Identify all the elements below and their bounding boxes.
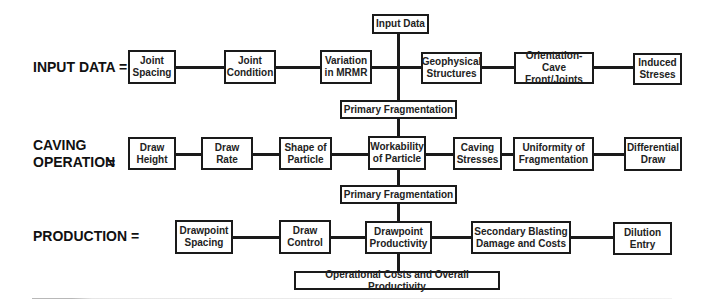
node-induced-stresses: Induced Streses xyxy=(633,53,682,85)
node-draw-rate: Draw Rate xyxy=(201,137,253,170)
node-shape-of-particle: Shape of Particle xyxy=(279,137,332,170)
row-label-input-data: INPUT DATA = xyxy=(33,59,127,76)
node-geophysical-structures: Geophysical Structures xyxy=(421,52,482,84)
node-dilution-entry: Dilution Entry xyxy=(613,222,672,255)
primary-fragmentation-node-1: Primary Fragmentation xyxy=(340,100,457,119)
node-uniformity-of-fragmentation: Uniformity of Fragmentation xyxy=(513,137,594,171)
trunk-line-mid2 xyxy=(397,169,400,186)
node-drawpoint-productivity: Drawpoint Productivity xyxy=(365,221,432,254)
node-drawpoint-spacing: Drawpoint Spacing xyxy=(175,220,233,254)
node-orientation-cave-front-joints: Orientation-Cave Front/Joints xyxy=(514,52,594,84)
node-caving-stresses: Caving Stresses xyxy=(453,137,502,170)
row-label-production: PRODUCTION = xyxy=(33,228,139,245)
node-joint-condition: Joint Condition xyxy=(224,50,276,84)
node-variation-in-mrmr: Variation in MRMR xyxy=(320,50,372,84)
row-label-caving-operation: CAVING OPERATION xyxy=(33,137,115,171)
row-label-caving-operation-equals: = xyxy=(107,155,115,171)
node-workability-of-particle: Workability of Particle xyxy=(368,136,426,170)
node-joint-spacing: Joint Spacing xyxy=(128,50,176,84)
node-differential-draw: Differential Draw xyxy=(624,137,682,171)
node-draw-control: Draw Control xyxy=(279,220,331,254)
node-draw-height: Draw Height xyxy=(128,137,176,170)
trunk-line-mid1 xyxy=(397,117,400,138)
input-data-node: Input Data xyxy=(372,14,429,34)
operational-costs-node: Operational Costs and Overall Productivi… xyxy=(294,271,500,290)
primary-fragmentation-node-2: Primary Fragmentation xyxy=(340,185,457,204)
trunk-line-mid3 xyxy=(397,202,400,221)
footer-rule xyxy=(32,298,672,299)
node-secondary-blasting-damage-and-costs: Secondary Blasting Damage and Costs xyxy=(471,221,571,254)
